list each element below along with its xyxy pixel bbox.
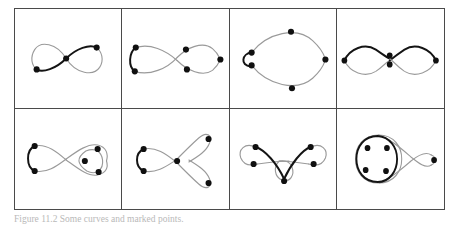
panel-1-drawing bbox=[15, 9, 121, 108]
panel-8-drawing bbox=[337, 109, 444, 209]
node-right-tip bbox=[433, 57, 439, 63]
node-circle-bottom-left bbox=[363, 167, 369, 173]
node-right-upper bbox=[307, 144, 313, 150]
node-right-tip bbox=[218, 56, 224, 62]
node-right-upper bbox=[94, 45, 100, 51]
node-center-upper bbox=[387, 52, 393, 58]
panel-5-drawing bbox=[15, 109, 121, 209]
curve-dark-left-arc bbox=[28, 146, 35, 171]
curve-gray-right-lower bbox=[389, 59, 435, 75]
panel-8-circle-with-four-nodes-and-loop bbox=[337, 109, 444, 209]
curve-gray-left-top bbox=[144, 148, 176, 162]
curve-gray-left-bottom bbox=[135, 58, 177, 73]
curve-gray-left-bottom bbox=[35, 159, 66, 172]
node-left-upper bbox=[32, 143, 38, 149]
node-left-lower bbox=[141, 168, 147, 174]
curve-dark-left-arc bbox=[130, 48, 136, 72]
node-right-loop-tip bbox=[431, 157, 437, 163]
node-triangle-left bbox=[82, 158, 88, 164]
node-bottom bbox=[281, 178, 287, 184]
curve-gray-right-bottom bbox=[177, 59, 220, 73]
panel-6-figure-eight-with-two-petals bbox=[122, 109, 229, 209]
curve-gray-upper-petal bbox=[176, 134, 210, 162]
node-center-crossing bbox=[63, 55, 69, 61]
curve-gray-left-bottom bbox=[144, 160, 176, 172]
panel-7-trefoil-three-lobe bbox=[230, 109, 337, 209]
node-triangle-bottom bbox=[96, 169, 102, 175]
curve-gray-right-top bbox=[177, 45, 220, 59]
node-lower-petal-tip bbox=[206, 180, 212, 186]
node-triangle-top bbox=[95, 146, 101, 152]
curve-dark-left-upper bbox=[344, 47, 389, 61]
node-circle-bottom-right bbox=[383, 168, 389, 174]
node-right-lower bbox=[310, 161, 316, 167]
node-circle-top-left bbox=[364, 145, 370, 151]
panel-5-figure-eight-with-triangle-loop bbox=[15, 109, 122, 209]
curve-gray-left-lower bbox=[344, 60, 389, 74]
node-lower-middle bbox=[184, 66, 190, 72]
panel-3-small-loop-large-loop bbox=[230, 9, 337, 109]
panel-grid bbox=[14, 8, 445, 210]
curve-dark-left-arc bbox=[137, 149, 144, 171]
node-circle-top-right bbox=[384, 145, 390, 151]
curve-gray-large-loop-bottom bbox=[251, 59, 325, 85]
curve-dark-right-upper bbox=[389, 47, 435, 61]
node-left-lower bbox=[132, 68, 138, 74]
curve-gray-left-top bbox=[35, 145, 66, 160]
node-large-loop-top bbox=[287, 29, 293, 35]
curve-gray-left-top bbox=[136, 46, 177, 60]
node-large-loop-bottom bbox=[288, 85, 294, 91]
node-small-loop-lower bbox=[248, 62, 254, 68]
panel-3-drawing bbox=[230, 9, 336, 108]
node-center-lower bbox=[387, 61, 393, 67]
node-upper-petal-tip bbox=[206, 136, 212, 142]
node-small-loop-upper bbox=[248, 49, 254, 55]
node-branch-point bbox=[174, 158, 180, 164]
node-upper-middle bbox=[183, 47, 189, 53]
node-large-loop-right bbox=[322, 56, 328, 62]
node-left-lower bbox=[34, 66, 40, 72]
figure-root: Figure 11.2 Some curves and marked point… bbox=[0, 0, 459, 231]
node-left-tip bbox=[341, 57, 347, 63]
panel-7-drawing bbox=[230, 109, 336, 209]
curve-dark-circle bbox=[356, 136, 397, 182]
figure-caption: Figure 11.2 Some curves and marked point… bbox=[14, 214, 445, 225]
panel-2-figure-eight-five-nodes bbox=[122, 9, 229, 109]
panel-4-double-figure-eight bbox=[337, 9, 444, 109]
panel-1-figure-eight-three-nodes bbox=[15, 9, 122, 109]
node-left-lower bbox=[32, 168, 38, 174]
node-left-upper bbox=[133, 45, 139, 51]
panel-2-drawing bbox=[122, 9, 228, 108]
node-left-upper bbox=[141, 146, 147, 152]
curve-gray-right-lower bbox=[66, 48, 102, 73]
node-left-upper bbox=[252, 144, 258, 150]
panel-6-drawing bbox=[122, 109, 228, 209]
curve-gray-large-loop-top bbox=[251, 33, 325, 60]
curve-gray-lower-petal bbox=[176, 160, 210, 188]
curve-gray-left-upper bbox=[32, 44, 66, 69]
panel-4-drawing bbox=[337, 9, 444, 108]
node-left-lower bbox=[250, 161, 256, 167]
